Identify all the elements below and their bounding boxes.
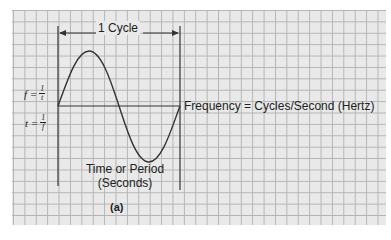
period-equation: t = 1 f bbox=[25, 114, 46, 131]
time-period-label: Time or Period (Seconds) bbox=[80, 162, 170, 190]
frequency-label: Frequency = Cycles/Second (Hertz) bbox=[184, 99, 374, 113]
sine-wave-drawing bbox=[0, 0, 391, 240]
eq-f-lhs: f = bbox=[24, 88, 37, 100]
eq-f-denominator: t bbox=[41, 94, 43, 102]
sine-wave-figure: 1 Cycle f = 1 t t = 1 f Frequency = Cycl… bbox=[0, 0, 391, 240]
arrowhead-right-icon bbox=[172, 30, 179, 36]
eq-t-denominator: f bbox=[42, 123, 44, 131]
arrowhead-left-icon bbox=[59, 30, 66, 36]
frequency-equation: f = 1 t bbox=[24, 85, 45, 102]
eq-t-lhs: t = bbox=[25, 117, 38, 129]
time-label-line2: (Seconds) bbox=[80, 176, 170, 190]
subfigure-label: (a) bbox=[110, 201, 123, 213]
time-label-line1: Time or Period bbox=[80, 162, 170, 176]
cycle-label: 1 Cycle bbox=[96, 21, 140, 35]
eq-f-fraction: 1 t bbox=[39, 85, 45, 102]
eq-t-fraction: 1 f bbox=[40, 114, 46, 131]
